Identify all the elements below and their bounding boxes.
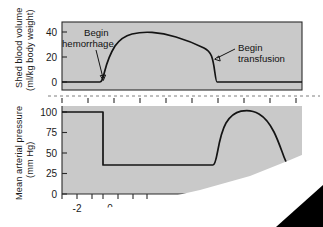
bottom-panel-y-axis-title-line2: (mm Hg)	[25, 142, 35, 178]
figure-container: 40 20 0 Begin hemorrhage Begin transfusi…	[0, 0, 323, 227]
bottom-panel-ytick-50: 50	[46, 148, 58, 159]
bottom-panel-ytick-25: 25	[46, 168, 58, 179]
top-panel-ytick-0: 0	[51, 77, 57, 88]
begin-transfusion-label-line1: Begin	[238, 42, 263, 53]
panel-separator	[48, 96, 320, 103]
top-panel-y-axis-title-line2: (ml/kg body weight)	[25, 9, 35, 91]
top-panel-ytick-20: 20	[46, 52, 58, 63]
bottom-panel-ytick-0: 0	[51, 189, 57, 200]
separator-tick-row	[62, 98, 296, 103]
page-corner-overlay-secondary	[92, 206, 118, 227]
top-panel: 40 20 0 Begin hemorrhage Begin transfusi…	[46, 22, 302, 90]
top-panel-y-axis-title-line1: Shed blood volume	[14, 8, 24, 88]
top-panel-ytick-40: 40	[46, 27, 58, 38]
bottom-panel-ytick-75: 75	[46, 127, 58, 138]
top-panel-y-axis-title: Shed blood volume (ml/kg body weight)	[14, 8, 35, 91]
bottom-panel-y-axis-title-line1: Mean arterial pressure	[14, 106, 24, 200]
bottom-panel-ytick-100: 100	[40, 107, 57, 118]
bottom-panel-y-axis-title: Mean arterial pressure (mm Hg)	[14, 106, 35, 200]
xtick-minus-2: -2	[73, 203, 82, 214]
x-axis-ticks	[62, 194, 147, 199]
begin-transfusion-label-line2: transfusion	[238, 53, 285, 64]
begin-hemorrhage-label-line2: hemorrhage	[62, 38, 114, 49]
chart-svg: 40 20 0 Begin hemorrhage Begin transfusi…	[0, 0, 323, 227]
begin-hemorrhage-label-line1: Begin	[84, 27, 109, 38]
